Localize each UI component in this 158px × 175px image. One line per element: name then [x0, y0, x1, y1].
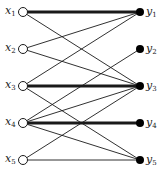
- node-label-y3: y3: [146, 80, 157, 93]
- node-label-x3: x3: [5, 79, 16, 92]
- node-x1-open-circle: [19, 8, 28, 17]
- node-y1-filled-circle: [136, 8, 144, 16]
- node-y3-filled-circle: [136, 82, 144, 90]
- node-x4-open-circle: [19, 119, 28, 128]
- node-label-x1: x1: [5, 5, 16, 18]
- node-y2-filled-circle: [136, 45, 144, 53]
- node-x3-open-circle: [19, 82, 28, 91]
- node-label-y1: y1: [146, 6, 157, 19]
- edge-x4-y3: [23, 86, 140, 123]
- node-label-x5: x5: [5, 153, 16, 166]
- bipartite-graph: [0, 0, 158, 175]
- node-label-y2: y2: [146, 43, 157, 56]
- edge-x2-y1: [23, 12, 140, 49]
- edge-x2-y3: [23, 49, 140, 86]
- node-x5-open-circle: [19, 156, 28, 165]
- node-y5-filled-circle: [136, 156, 144, 164]
- node-label-y5: y5: [146, 154, 157, 167]
- node-label-x4: x4: [5, 116, 16, 129]
- edge-x4-y5: [23, 123, 140, 160]
- edges-layer: [23, 12, 140, 160]
- node-x2-open-circle: [19, 45, 28, 54]
- node-y4-filled-circle: [136, 119, 144, 127]
- node-label-y4: y4: [146, 117, 157, 130]
- node-label-x2: x2: [5, 42, 16, 55]
